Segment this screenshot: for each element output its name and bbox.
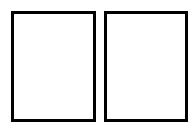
left-panel <box>11 11 96 122</box>
right-panel <box>104 11 188 122</box>
